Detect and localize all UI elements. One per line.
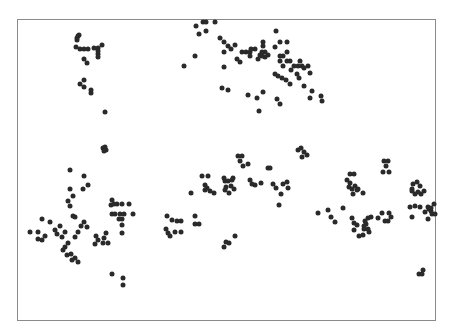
data-point	[75, 38, 80, 43]
data-point	[246, 162, 251, 167]
data-point	[206, 174, 211, 179]
data-point	[165, 214, 170, 219]
data-point	[120, 231, 125, 236]
data-point	[68, 168, 73, 173]
data-point	[102, 236, 107, 241]
data-point	[81, 187, 86, 192]
data-point	[266, 53, 271, 58]
data-point	[106, 241, 111, 246]
data-point	[316, 211, 321, 216]
data-point	[274, 29, 279, 34]
data-point	[253, 183, 258, 188]
data-point	[60, 235, 65, 240]
data-point	[423, 210, 428, 215]
data-point	[233, 43, 238, 48]
data-point	[222, 245, 227, 250]
data-point	[204, 29, 209, 34]
data-point	[36, 237, 41, 242]
data-point	[361, 191, 366, 196]
data-point	[300, 155, 305, 160]
data-point	[68, 204, 73, 209]
data-point	[376, 216, 381, 221]
data-point	[63, 230, 68, 235]
data-point	[387, 170, 392, 175]
data-point	[197, 32, 202, 37]
data-point	[259, 181, 264, 186]
data-point	[288, 82, 293, 87]
data-point	[58, 224, 63, 229]
data-point	[381, 170, 386, 175]
data-point	[197, 222, 202, 227]
data-point	[73, 235, 78, 240]
data-point	[285, 40, 290, 45]
data-point	[356, 187, 361, 192]
data-point	[213, 20, 218, 25]
data-point	[36, 230, 41, 235]
data-point	[432, 202, 437, 207]
data-point	[320, 99, 325, 104]
data-point	[281, 64, 286, 69]
data-point	[341, 206, 346, 211]
data-point	[28, 230, 33, 235]
data-point	[362, 224, 367, 229]
data-point	[305, 153, 310, 158]
data-point	[329, 215, 334, 220]
data-point	[103, 110, 108, 115]
data-point	[310, 89, 315, 94]
data-point	[233, 234, 238, 239]
data-point	[86, 47, 91, 52]
data-point	[71, 194, 76, 199]
data-point	[231, 176, 236, 181]
data-point	[257, 109, 262, 114]
data-point	[82, 85, 87, 90]
data-point	[419, 192, 424, 197]
data-point	[48, 220, 53, 225]
data-point	[285, 180, 290, 185]
data-point	[226, 88, 231, 93]
data-point	[182, 64, 187, 69]
data-point	[70, 258, 75, 263]
data-point	[248, 54, 253, 59]
data-point	[102, 149, 107, 154]
data-point	[82, 174, 87, 179]
data-point	[61, 248, 66, 253]
data-point	[204, 20, 209, 25]
data-point	[278, 59, 283, 64]
data-point	[212, 191, 217, 196]
data-point	[306, 64, 311, 69]
data-point	[274, 186, 279, 191]
data-point	[179, 230, 184, 235]
data-point	[76, 260, 81, 265]
data-point	[268, 166, 273, 171]
data-point	[121, 283, 126, 288]
data-point	[369, 215, 374, 220]
data-point	[241, 164, 246, 169]
data-point	[410, 215, 415, 220]
data-point	[240, 154, 245, 159]
data-point	[200, 174, 205, 179]
data-point	[352, 172, 357, 177]
data-point	[278, 102, 283, 107]
data-point	[189, 191, 194, 196]
data-point	[352, 228, 357, 233]
data-point	[261, 90, 266, 95]
data-point	[127, 202, 132, 207]
data-point	[361, 233, 366, 238]
data-point	[246, 93, 251, 98]
data-point	[85, 225, 90, 230]
data-point	[298, 59, 303, 64]
data-point	[110, 272, 115, 277]
data-point	[73, 215, 78, 220]
data-point	[220, 86, 225, 91]
data-point	[82, 78, 87, 83]
data-point	[413, 192, 418, 197]
data-point	[367, 230, 372, 235]
data-point	[286, 186, 291, 191]
data-point	[308, 96, 313, 101]
data-point	[76, 230, 81, 235]
data-point	[100, 43, 105, 48]
data-point	[179, 219, 184, 224]
data-point	[222, 50, 227, 55]
data-point	[417, 272, 422, 277]
data-point	[227, 241, 232, 246]
